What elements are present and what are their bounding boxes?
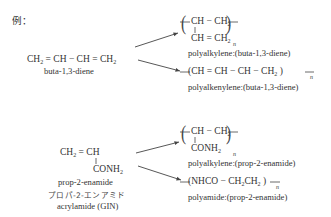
repeat-unit-top-row: CH − CH2	[191, 16, 231, 26]
monomer-substituent: CONH2	[93, 164, 123, 174]
reaction-arrows	[0, 0, 331, 217]
product-label-polyalkylene-enamide: polyalkylene:(prop-2-enamide)	[188, 158, 295, 168]
close-paren: )	[226, 12, 231, 34]
arrow-to-polyalkenylene-diene	[138, 60, 180, 71]
monomer-common-name: acrylamide (GIN)	[57, 201, 118, 211]
repeat-count-n: n	[310, 74, 313, 80]
open-paren: (	[181, 122, 186, 144]
monomer-formula-butadiene: CH2 = CH − CH = CH2	[27, 54, 116, 64]
product-label-polyamide-enamide: polyamide:(prop-2-enamide)	[188, 192, 287, 202]
product-label-polyalkenylene-diene: polyalkenylene:(buta-1,3-diene)	[188, 82, 298, 92]
repeat-count-n: n	[233, 41, 236, 47]
arrow-to-polyalkylene-diene	[135, 33, 178, 47]
repeat-count-n: n	[233, 151, 236, 157]
repeat-unit-chain: (NHCO − CH2CH2 )	[188, 176, 266, 186]
monomer-name-butadiene: buta-1,3-diene	[44, 66, 94, 76]
repeat-unit-chain: (CH = CH − CH − CH2 )	[188, 66, 283, 76]
repeat-unit-substituent: CONH2	[191, 143, 221, 153]
product-label-polyalkylene-diene: polyalkylene:(buta-1,3-diene)	[188, 48, 290, 58]
example-heading: 例：	[12, 13, 32, 27]
arrow-to-polyamide-enamide	[138, 166, 181, 180]
arrow-to-polyalkylene-enamide	[136, 142, 179, 153]
monomer-name-katakana: プロパ-2-エンアミド	[48, 189, 126, 200]
monomer-name-acrylamide: prop-2-enamide	[58, 177, 113, 187]
monomer-formula-acrylamide: CH2 = CH	[60, 147, 100, 157]
repeat-unit-side-chain: CH = CH2	[191, 33, 231, 43]
repeat-count-n: n	[276, 184, 279, 190]
repeat-unit-top-row: CH − CH2	[191, 126, 231, 136]
open-paren: (	[181, 12, 186, 34]
close-paren: )	[226, 122, 231, 144]
